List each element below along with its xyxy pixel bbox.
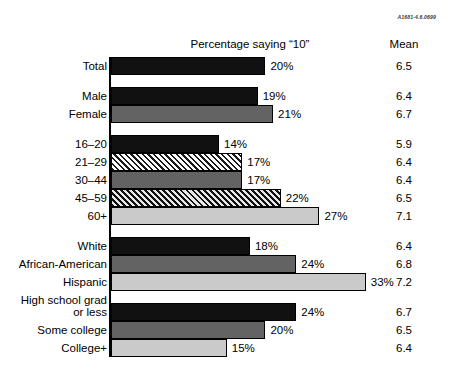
bar-row: 30–4417%6.4 bbox=[0, 171, 450, 189]
bar-row: 45–5922%6.5 bbox=[0, 189, 450, 207]
bar-value-label: 22% bbox=[286, 189, 309, 207]
mean-value: 6.5 bbox=[380, 189, 428, 207]
bar-row: 60+27%7.1 bbox=[0, 207, 450, 225]
bar-row-label: Female bbox=[69, 105, 107, 123]
bar bbox=[111, 255, 296, 273]
mean-value: 6.5 bbox=[380, 321, 428, 339]
bar bbox=[111, 57, 265, 75]
bar-row-label: College+ bbox=[61, 339, 107, 357]
bar-value-label: 21% bbox=[278, 105, 301, 123]
mean-column-header: Mean bbox=[380, 38, 428, 50]
bar-row-label: White bbox=[78, 237, 107, 255]
bar-row: 21–2917%6.4 bbox=[0, 153, 450, 171]
bar-value-label: 19% bbox=[263, 87, 286, 105]
bar-row-label: African-American bbox=[19, 255, 107, 273]
bar-value-label: 20% bbox=[270, 57, 293, 75]
bar-row: Total20%6.5 bbox=[0, 57, 450, 75]
bar-row-label: 60+ bbox=[87, 207, 107, 225]
source-code-label: A1681-4.6.0699 bbox=[397, 14, 436, 20]
bar-row: High school grador less24%6.7 bbox=[0, 303, 450, 321]
bar bbox=[111, 105, 273, 123]
bar-row: White18%6.4 bbox=[0, 237, 450, 255]
mean-value: 6.4 bbox=[380, 339, 428, 357]
bar-value-label: 24% bbox=[301, 303, 324, 321]
bar bbox=[111, 273, 366, 291]
bar-row-label: Some college bbox=[37, 321, 107, 339]
chart-figure: A1681-4.6.0699 Percentage saying “10” Me… bbox=[0, 0, 450, 383]
bar-row-label-line1: High school grad bbox=[21, 294, 107, 306]
bar-value-label: 20% bbox=[270, 321, 293, 339]
bar-row-label: 16–20 bbox=[75, 135, 107, 153]
mean-value: 6.5 bbox=[380, 57, 428, 75]
bar bbox=[111, 153, 242, 171]
bar-row: College+15%6.4 bbox=[0, 339, 450, 357]
mean-value: 6.7 bbox=[380, 105, 428, 123]
bar-row: Some college20%6.5 bbox=[0, 321, 450, 339]
bar-value-label: 27% bbox=[324, 207, 347, 225]
bar-row-label-line2: or less bbox=[21, 306, 107, 318]
percentage-column-header: Percentage saying “10” bbox=[150, 38, 350, 50]
bar-row: Hispanic33%7.2 bbox=[0, 273, 450, 291]
bar-row-label: Total bbox=[83, 57, 107, 75]
bar bbox=[111, 207, 319, 225]
bar-value-label: 24% bbox=[301, 255, 324, 273]
bar-value-label: 18% bbox=[255, 237, 278, 255]
mean-value: 7.1 bbox=[380, 207, 428, 225]
bar-row: African-American24%6.8 bbox=[0, 255, 450, 273]
bar bbox=[111, 87, 258, 105]
plot-area: Total20%6.5Male19%6.4Female21%6.716–2014… bbox=[0, 57, 450, 357]
bar bbox=[111, 171, 242, 189]
mean-value: 6.7 bbox=[380, 303, 428, 321]
bar bbox=[111, 189, 281, 207]
mean-value: 7.2 bbox=[380, 273, 428, 291]
mean-value: 6.4 bbox=[380, 87, 428, 105]
mean-value: 6.4 bbox=[380, 171, 428, 189]
mean-value: 5.9 bbox=[380, 135, 428, 153]
bar-row-label: Male bbox=[82, 87, 107, 105]
bar bbox=[111, 303, 296, 321]
mean-value: 6.8 bbox=[380, 255, 428, 273]
bar-row: Female21%6.7 bbox=[0, 105, 450, 123]
bar-value-label: 17% bbox=[247, 153, 270, 171]
bar-row-label: Hispanic bbox=[63, 273, 107, 291]
mean-value: 6.4 bbox=[380, 153, 428, 171]
bar bbox=[111, 135, 219, 153]
bar bbox=[111, 339, 227, 357]
bar-rows: Total20%6.5Male19%6.4Female21%6.716–2014… bbox=[0, 57, 450, 357]
bar-row-label: 30–44 bbox=[75, 171, 107, 189]
bar-value-label: 17% bbox=[247, 171, 270, 189]
bar-row: 16–2014%5.9 bbox=[0, 135, 450, 153]
column-headers: Percentage saying “10” Mean bbox=[0, 38, 450, 54]
mean-value: 6.4 bbox=[380, 237, 428, 255]
bar-value-label: 15% bbox=[232, 339, 255, 357]
bar bbox=[111, 237, 250, 255]
bar-row-label: 21–29 bbox=[75, 153, 107, 171]
bar-row: Male19%6.4 bbox=[0, 87, 450, 105]
bar-value-label: 14% bbox=[224, 135, 247, 153]
bar-row-label: 45–59 bbox=[75, 189, 107, 207]
bar bbox=[111, 321, 265, 339]
